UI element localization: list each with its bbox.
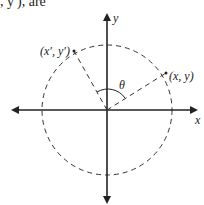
- y-axis-label: y: [112, 11, 119, 25]
- angle-theta-label: θ: [119, 78, 125, 92]
- original-point-marker: [165, 72, 168, 75]
- rotation-diagram: y x (x′, y′) (x, y) θ: [0, 0, 204, 205]
- x-axis-label: x: [194, 113, 201, 127]
- rotated-point-label: (x′, y′): [40, 44, 70, 58]
- radius-to-rotated-point: [74, 51, 107, 110]
- radius-to-original-point: [107, 73, 166, 110]
- original-point-label: (x, y): [169, 69, 194, 83]
- rotated-point-marker: [73, 50, 76, 53]
